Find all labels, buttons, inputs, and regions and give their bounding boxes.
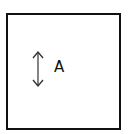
dimension-label: A (54, 60, 64, 75)
double-arrow-icon (31, 50, 45, 88)
